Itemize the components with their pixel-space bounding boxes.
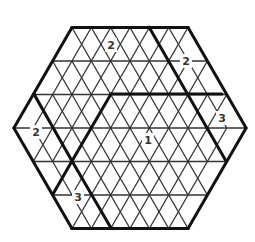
puzzle-board: 222313 <box>0 0 255 242</box>
clue-number: 2 <box>182 55 190 68</box>
clue-number: 2 <box>32 126 40 139</box>
clue-number: 3 <box>218 112 226 125</box>
clue-number: 2 <box>107 39 115 52</box>
clue-number: 1 <box>144 134 152 147</box>
clue-number: 3 <box>74 191 82 204</box>
grid-lines <box>14 28 246 229</box>
